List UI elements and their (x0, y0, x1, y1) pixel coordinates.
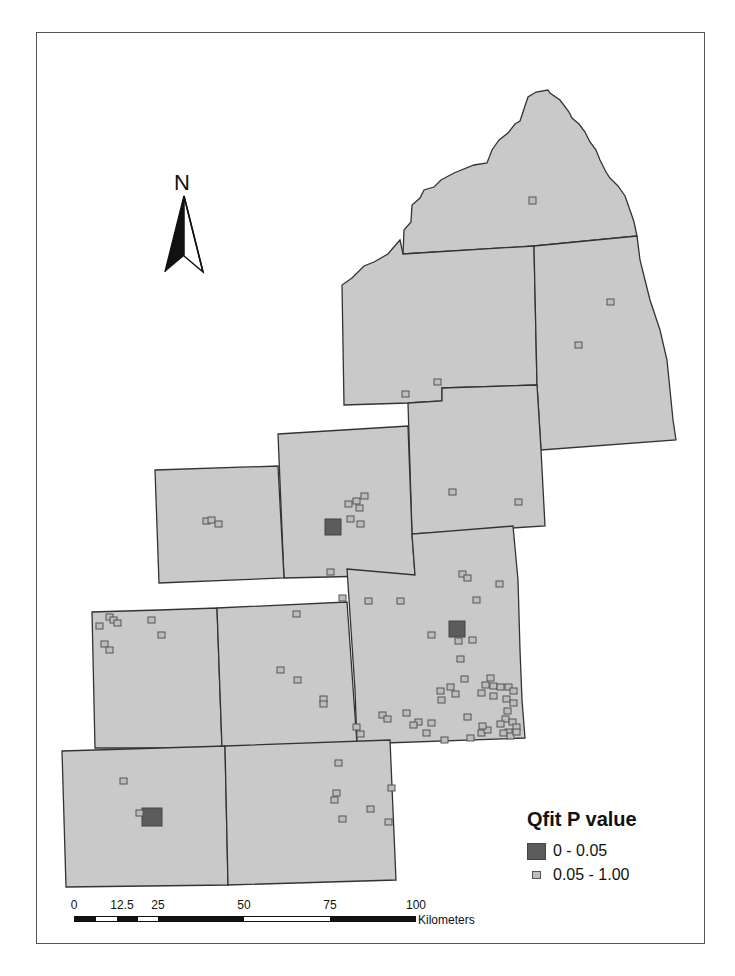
county-south-west-upper (92, 608, 222, 748)
scale-segment (138, 916, 158, 922)
north-arrow-icon (160, 170, 210, 280)
small-square-icon (532, 871, 541, 879)
scale-segment (244, 916, 330, 922)
scale-unit: Kilometers (418, 913, 475, 927)
scale-tick: 75 (323, 898, 336, 912)
scale-tick: 25 (151, 898, 164, 912)
scale-tick: 50 (237, 898, 250, 912)
county-central-east (408, 385, 545, 534)
large-square-icon (527, 843, 546, 860)
marker-significant (325, 519, 341, 535)
scale-bar: 0 12.5 25 50 75 100 Kilometers (72, 898, 472, 928)
scale-tick: 0 (71, 898, 78, 912)
scale-segment (96, 916, 117, 922)
scale-segment (158, 916, 244, 922)
county-south-central-upper (217, 602, 357, 748)
scale-tick: 100 (406, 898, 426, 912)
marker-significant (142, 808, 162, 826)
county-northeast (534, 236, 676, 450)
legend-label: 0 - 0.05 (553, 842, 607, 860)
scale-segment (330, 916, 416, 922)
marker-significant (449, 621, 465, 637)
legend: Qfit P value 0 - 0.05 0.05 - 1.00 (527, 808, 637, 887)
scale-segment (117, 916, 138, 922)
legend-title: Qfit P value (527, 808, 637, 831)
legend-item-significant: 0 - 0.05 (527, 839, 637, 863)
legend-item-nonsignificant: 0.05 - 1.00 (527, 863, 637, 887)
counties (62, 90, 676, 887)
scale-segment (74, 916, 96, 922)
legend-label: 0.05 - 1.00 (553, 866, 630, 884)
scale-tick: 12.5 (110, 898, 133, 912)
county-north-tip (403, 90, 637, 254)
